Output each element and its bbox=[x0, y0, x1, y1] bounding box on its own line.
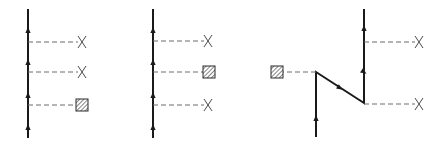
cross-icon bbox=[78, 36, 86, 48]
hatched-square-icon bbox=[203, 66, 215, 78]
arrow-icon bbox=[150, 92, 155, 98]
hatched-square-icon bbox=[76, 99, 88, 111]
diagram-b bbox=[150, 10, 215, 137]
arrow-icon bbox=[25, 27, 30, 33]
arrow-icon bbox=[360, 68, 366, 73]
arrow-icon bbox=[150, 59, 155, 65]
cross-icon bbox=[415, 98, 423, 110]
arrow-icon bbox=[150, 124, 155, 130]
cross-icon bbox=[415, 36, 423, 48]
arrow-icon bbox=[25, 92, 30, 98]
cross-icon bbox=[204, 35, 212, 47]
diagram-a bbox=[25, 10, 88, 137]
arrow-icon bbox=[313, 115, 318, 121]
arrow-icon bbox=[361, 25, 366, 31]
hatched-square-icon bbox=[271, 66, 283, 78]
cross-icon bbox=[204, 99, 212, 111]
cross-icon bbox=[78, 66, 86, 78]
diagram-canvas bbox=[0, 0, 444, 146]
arrow-icon bbox=[25, 124, 30, 130]
diagram-c bbox=[271, 10, 423, 136]
arrow-icon bbox=[25, 59, 30, 65]
world-line bbox=[316, 10, 364, 136]
arrow-icon bbox=[150, 27, 155, 33]
